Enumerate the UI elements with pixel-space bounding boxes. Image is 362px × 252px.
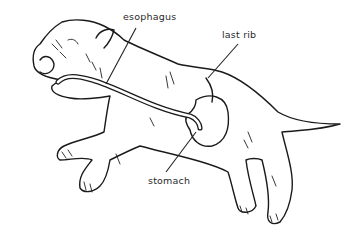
label-stomach: stomach	[148, 175, 190, 186]
label-esophagus: esophagus	[123, 11, 176, 22]
hind-paw-toes	[240, 206, 278, 222]
stomach-organ	[186, 96, 229, 146]
esophagus-tube	[58, 77, 200, 129]
puppy-anatomy-diagram: esophagus last rib stomach	[0, 0, 362, 252]
face-wrinkles	[52, 40, 102, 78]
stomach-leader-line	[166, 132, 196, 172]
label-last-rib: last rib	[222, 29, 256, 40]
esophagus-tube-inner	[58, 77, 200, 129]
puppy-muzzle	[40, 57, 54, 74]
puppy-ear	[96, 29, 114, 48]
puppy-eye	[68, 39, 78, 44]
front-paw-toes	[62, 150, 92, 192]
puppy-illustration	[0, 0, 362, 252]
